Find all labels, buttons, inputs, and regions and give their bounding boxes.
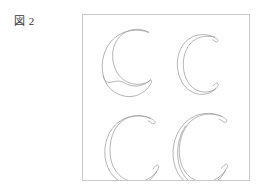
crescent-top-left xyxy=(102,29,151,96)
crescent-bottom-left-tip-lower xyxy=(153,165,159,171)
crescent-top-right xyxy=(177,35,218,95)
crescent-bottom-right-tip-upper xyxy=(219,116,227,122)
crescent-top-right-tip-upper xyxy=(213,37,218,42)
figure-frame xyxy=(82,14,250,181)
crescent-top-right-tip-lower xyxy=(213,83,218,88)
crescent-bottom-right-tip-lower xyxy=(222,164,228,170)
crescent-top-left-inner xyxy=(103,76,151,97)
figure-caption: 図 2 xyxy=(14,14,35,28)
crescent-bottom-left-outline xyxy=(105,116,157,180)
crescent-bottom-right-inner-arc xyxy=(178,126,198,180)
crescent-top-right-outline xyxy=(177,35,216,95)
crescent-bottom-left xyxy=(105,116,159,180)
crescent-bottom-left-tip-upper xyxy=(148,118,155,123)
figure-root: 図 2 xyxy=(0,0,265,187)
crescent-bottom-right xyxy=(173,113,228,180)
crescent-top-left-outline xyxy=(102,29,150,86)
crescent-shapes-canvas xyxy=(83,15,249,180)
